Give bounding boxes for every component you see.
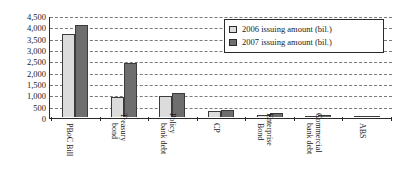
x-axis-category-label: ABS bbox=[358, 123, 367, 139]
light-gray-swatch-icon bbox=[229, 26, 237, 33]
legend-item-label: 2007 issuing amount (bil.) bbox=[242, 38, 332, 47]
bar bbox=[208, 111, 221, 117]
x-axis-category-label-line: bank debt bbox=[305, 123, 314, 154]
x-axis-label-slot: Policybank debt bbox=[147, 121, 196, 177]
x-axis-category-label-line: Policy bbox=[168, 113, 177, 154]
bar bbox=[354, 116, 367, 117]
bar bbox=[75, 25, 88, 117]
chart-legend: 2006 issuing amount (bil.) 2007 issuing … bbox=[224, 19, 384, 53]
y-axis-tick-label: 1,000 bbox=[27, 92, 46, 101]
y-axis-tick-label: 2,500 bbox=[27, 58, 46, 67]
legend-item: 2006 issuing amount (bil.) bbox=[229, 23, 379, 36]
y-axis-tick-label: 0 bbox=[42, 115, 46, 124]
bar bbox=[221, 110, 234, 117]
x-axis-category-label-line: Enterprise bbox=[265, 113, 274, 146]
x-axis-label-slot: ABS bbox=[342, 121, 391, 177]
dark-gray-swatch-icon bbox=[229, 39, 237, 46]
legend-item-label: 2006 issuing amount (bil.) bbox=[242, 25, 332, 34]
bar bbox=[367, 116, 380, 117]
bar-group bbox=[148, 17, 197, 117]
y-axis-labels: 4,5004,0003,5003,0002,5002,0001,5001,000… bbox=[0, 0, 46, 177]
bar-group bbox=[100, 17, 149, 117]
bar-group bbox=[51, 17, 100, 117]
y-axis-tick-label: 500 bbox=[33, 103, 46, 112]
y-axis-tick-label: 4,500 bbox=[27, 13, 46, 22]
x-axis-category-label: EnterpriseBond bbox=[256, 123, 274, 146]
x-axis-category-label: Treasurybond bbox=[110, 123, 128, 141]
x-axis-label-slot: Commercialbank debt bbox=[294, 121, 343, 177]
x-axis-category-label: Commercialbank debt bbox=[305, 123, 323, 154]
x-axis-label-slot: CP bbox=[196, 121, 245, 177]
x-axis-category-label-line: ABS bbox=[358, 123, 367, 139]
y-axis-tick-label: 4,000 bbox=[27, 24, 46, 33]
bar bbox=[62, 34, 75, 117]
x-axis-category-label-line: bond bbox=[110, 123, 119, 141]
x-axis-category-label-line: Bond bbox=[256, 123, 265, 146]
bar bbox=[124, 63, 137, 117]
y-axis-tick-label: 1,500 bbox=[27, 81, 46, 90]
x-axis-label-slot: Treasurybond bbox=[99, 121, 148, 177]
y-axis-tick-label: 3,500 bbox=[27, 35, 46, 44]
x-axis-category-label-line: Treasury bbox=[119, 113, 128, 141]
x-axis-label-slot: EnterpriseBond bbox=[245, 121, 294, 177]
bar-chart: 4,5004,0003,5003,0002,5002,0001,5001,000… bbox=[0, 0, 396, 177]
y-axis-tick-label: 2,000 bbox=[27, 69, 46, 78]
y-axis-tick-label: 3,000 bbox=[27, 47, 46, 56]
x-axis-category-label: CP bbox=[212, 123, 221, 133]
x-axis-category-label-line: CP bbox=[212, 123, 221, 133]
x-axis-tick bbox=[391, 117, 392, 121]
x-axis-category-label: Policybank debt bbox=[159, 123, 177, 154]
x-axis-category-label-line: Commercial bbox=[314, 113, 323, 154]
legend-item: 2007 issuing amount (bil.) bbox=[229, 36, 379, 49]
x-axis-labels: PBoC BillTreasurybondPolicybank debtCPEn… bbox=[50, 121, 391, 177]
x-axis-label-slot: PBoC Bill bbox=[50, 121, 99, 177]
x-axis-category-label: PBoC Bill bbox=[65, 123, 74, 156]
x-axis-category-label-line: PBoC Bill bbox=[65, 123, 74, 156]
x-axis-category-label-line: bank debt bbox=[159, 123, 168, 154]
